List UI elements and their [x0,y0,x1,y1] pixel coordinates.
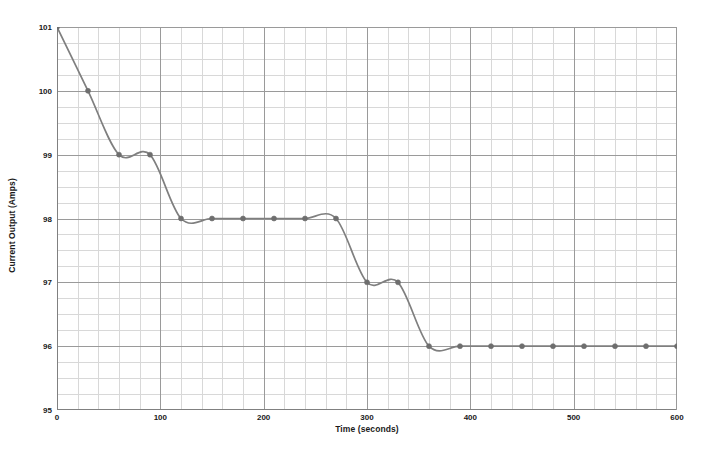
x-tick-label: 500 [554,413,594,422]
data-point [179,216,184,221]
data-point [551,344,556,349]
data-point [675,344,678,349]
data-point [644,344,649,349]
data-point [86,88,91,93]
y-tick-label: 99 [26,150,52,159]
x-tick-label: 0 [37,413,77,422]
data-point [210,216,215,221]
data-point [582,344,587,349]
x-tick-label: 200 [244,413,284,422]
data-point [272,216,277,221]
plot-area [57,27,677,410]
y-tick-label: 96 [26,342,52,351]
x-tick-label: 600 [657,413,697,422]
x-tick-label: 400 [450,413,490,422]
y-axis-tick-labels: 9596979899100101 [20,27,52,410]
y-tick-label: 98 [26,214,52,223]
y-tick-label: 97 [26,278,52,287]
data-point [613,344,618,349]
plot-svg [57,27,677,410]
current-output-line-chart: Current Output (Amps) 9596979899100101 0… [0,0,704,451]
data-point [334,216,339,221]
x-axis-title: Time (seconds) [57,424,677,434]
data-point [117,152,122,157]
data-point [396,280,401,285]
data-point [458,344,463,349]
data-point [427,344,432,349]
data-point [148,152,153,157]
y-tick-label: 101 [26,23,52,32]
data-point [489,344,494,349]
data-point [57,27,60,30]
data-point [520,344,525,349]
data-point [303,216,308,221]
x-tick-label: 100 [140,413,180,422]
data-point [241,216,246,221]
x-tick-label: 300 [347,413,387,422]
y-tick-label: 100 [26,86,52,95]
grid-major-vertical [58,27,678,410]
data-point [365,280,370,285]
